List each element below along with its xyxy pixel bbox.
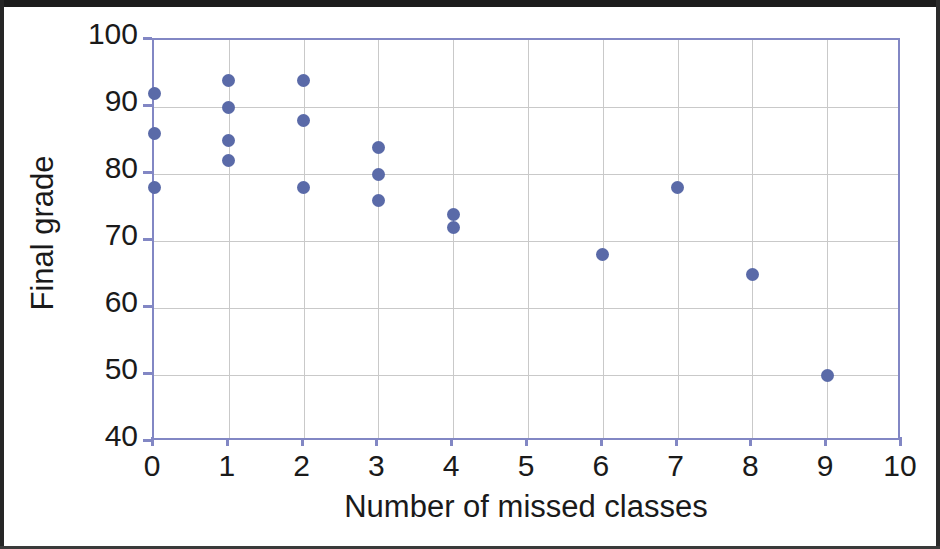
gridline-horizontal: [154, 241, 898, 242]
gridline-horizontal: [154, 107, 898, 108]
x-axis-tick-label: 1: [197, 449, 257, 483]
x-axis-tick-label: 0: [122, 449, 182, 483]
y-axis-tick-label: 100: [0, 17, 138, 51]
data-point: [372, 168, 385, 181]
gridline-vertical: [752, 40, 753, 438]
x-axis-title: Number of missed classes: [152, 489, 900, 525]
data-point: [372, 194, 385, 207]
data-point: [148, 181, 161, 194]
x-axis-tick-label: 6: [571, 449, 631, 483]
x-axis-tick-label: 4: [421, 449, 481, 483]
gridline-vertical: [304, 40, 305, 438]
x-axis-tick-label: 9: [795, 449, 855, 483]
data-point: [297, 181, 310, 194]
data-point: [746, 268, 759, 281]
gridline-horizontal: [154, 308, 898, 309]
data-point: [148, 127, 161, 140]
x-axis-tick-label: 2: [272, 449, 332, 483]
y-axis-tick-label: 70: [0, 218, 138, 252]
data-point: [222, 101, 235, 114]
figure-border-right: [936, 0, 940, 549]
gridline-vertical: [603, 40, 604, 438]
y-axis-tick-label: 50: [0, 352, 138, 386]
data-point: [222, 74, 235, 87]
y-axis-tick: [143, 171, 152, 174]
y-axis-tick-label: 60: [0, 285, 138, 319]
x-axis-tick-label: 10: [870, 449, 930, 483]
figure-border-top: [0, 0, 940, 7]
data-point: [148, 87, 161, 100]
data-point: [297, 114, 310, 127]
data-point: [596, 248, 609, 261]
y-axis-title: Final grade: [25, 103, 61, 363]
y-axis-tick-label: 80: [0, 151, 138, 185]
y-axis-tick-label: 40: [0, 419, 138, 453]
data-point: [447, 208, 460, 221]
y-axis-tick: [143, 238, 152, 241]
data-point: [222, 134, 235, 147]
figure-border-left: [0, 0, 4, 549]
data-point: [821, 369, 834, 382]
y-axis-tick: [143, 372, 152, 375]
data-point: [447, 221, 460, 234]
gridline-vertical: [453, 40, 454, 438]
y-axis-tick-label: 90: [0, 84, 138, 118]
data-point: [297, 74, 310, 87]
scatter-plot-figure: 405060708090100 012345678910 Number of m…: [0, 0, 940, 549]
x-axis-tick-label: 7: [646, 449, 706, 483]
data-point: [671, 181, 684, 194]
gridline-vertical: [528, 40, 529, 438]
x-axis-tick-label: 3: [346, 449, 406, 483]
gridline-vertical: [678, 40, 679, 438]
x-axis-tick-label: 8: [720, 449, 780, 483]
gridline-horizontal: [154, 174, 898, 175]
gridline-horizontal: [154, 375, 898, 376]
gridline-vertical: [229, 40, 230, 438]
data-point: [222, 154, 235, 167]
y-axis-tick: [143, 104, 152, 107]
plot-area: [152, 38, 900, 440]
data-point: [372, 141, 385, 154]
gridline-vertical: [378, 40, 379, 438]
y-axis-tick: [143, 37, 152, 40]
x-axis-tick-label: 5: [496, 449, 556, 483]
y-axis-tick: [143, 305, 152, 308]
